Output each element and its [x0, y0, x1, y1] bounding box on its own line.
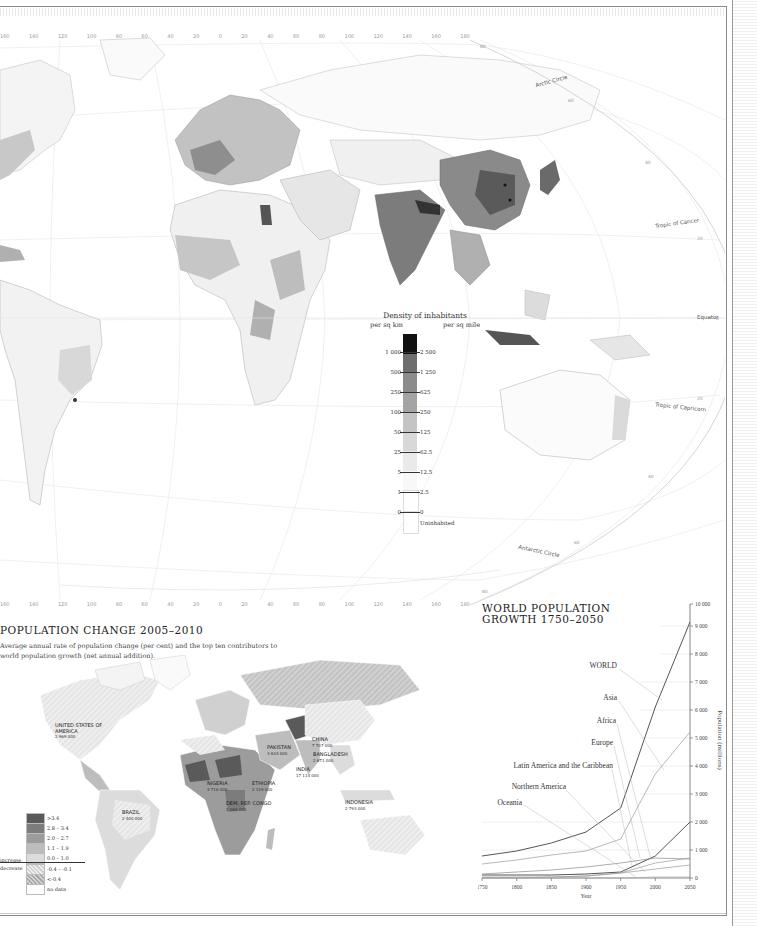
- lon-label: 160: [0, 601, 10, 607]
- tick-mile: 125: [420, 429, 431, 435]
- svg-text:8 000: 8 000: [695, 651, 708, 657]
- decrease-label: decrease: [0, 865, 23, 871]
- svg-text:3 000: 3 000: [695, 791, 708, 797]
- population-change-title: POPULATION CHANGE 2005–2010: [0, 624, 203, 636]
- tick-mile: 12.5: [420, 469, 432, 475]
- tick-mile: 62.5: [420, 449, 432, 455]
- country-label-bangladesh: BANGLADESH2 671 000: [313, 752, 348, 763]
- lat-label: 20: [697, 236, 703, 241]
- svg-text:1900: 1900: [581, 884, 592, 890]
- svg-text:9 000: 9 000: [695, 623, 708, 629]
- series-world: [482, 622, 690, 856]
- svg-text:Africa: Africa: [597, 716, 617, 725]
- lon-label: 20: [193, 601, 199, 607]
- country-value: 3 634 000: [267, 751, 291, 757]
- unit-per-sq-mile: per sq mile: [443, 321, 480, 329]
- density-swatch: [403, 334, 417, 354]
- density-swatch: [403, 490, 419, 512]
- country-label-china: CHINA7 707 000: [312, 737, 332, 748]
- svg-text:0: 0: [695, 875, 698, 881]
- longitude-labels-bottom: 160 140 120 100 80 60 40 20 0 20 40 60 8…: [0, 601, 470, 607]
- country-value: 2 793 000: [345, 806, 373, 812]
- tick-mile: 2.5: [420, 489, 429, 495]
- lat-label: 80: [482, 589, 488, 594]
- svg-text:1950: 1950: [615, 884, 626, 890]
- lon-label: 0: [219, 601, 222, 607]
- tick-km: 25: [371, 449, 401, 455]
- lon-label: 80: [319, 601, 325, 607]
- country-value: 2 969 000: [55, 734, 115, 740]
- svg-text:7 000: 7 000: [695, 679, 708, 685]
- country-name: PAKISTAN: [267, 745, 291, 751]
- tick-mile: 2 500: [420, 349, 436, 355]
- lon-label: 40: [167, 601, 173, 607]
- svg-text:Latin America and the Caribbea: Latin America and the Caribbean: [513, 761, 613, 770]
- lon-label: 140: [29, 601, 39, 607]
- country-name: BANGLADESH: [313, 752, 348, 758]
- tick-km: 50: [371, 429, 401, 435]
- density-legend-title: Density of inhabitants: [370, 311, 480, 320]
- legend-label: 0.0 – 1.0: [47, 855, 69, 861]
- country-value: 17 114 000: [296, 773, 319, 779]
- tick-km: 5: [371, 469, 401, 475]
- uninhabited-label: Uninhabited: [420, 520, 455, 526]
- lat-label: 40: [648, 474, 654, 479]
- svg-text:2000: 2000: [650, 884, 661, 890]
- lat-label: 60: [574, 540, 580, 545]
- country-value: 3 716 000: [207, 787, 228, 793]
- tick-km: 1: [371, 489, 401, 495]
- density-swatch: [403, 512, 419, 534]
- svg-text:5 000: 5 000: [695, 735, 708, 741]
- tick-mile: 625: [420, 389, 431, 395]
- svg-text:10 000: 10 000: [695, 601, 710, 607]
- svg-text:Oceania: Oceania: [497, 798, 522, 807]
- population-density-map: [0, 20, 725, 605]
- svg-text:Year: Year: [580, 893, 591, 899]
- country-name: INDONESIA: [345, 800, 373, 806]
- svg-text:Population (millions): Population (millions): [716, 710, 724, 770]
- tick-km: 250: [371, 389, 401, 395]
- lat-label: 40: [645, 160, 651, 165]
- increase-decrease-divider: [0, 862, 85, 863]
- lon-label: 140: [402, 601, 412, 607]
- tick-km: 500: [371, 369, 401, 375]
- svg-text:Northern America: Northern America: [512, 782, 567, 791]
- lon-label: 120: [58, 601, 68, 607]
- legend-swatch: [26, 884, 45, 895]
- svg-text:WORLD: WORLD: [590, 661, 618, 670]
- country-name: ETHIOPIA: [252, 781, 275, 787]
- lon-label: 180: [460, 601, 470, 607]
- svg-text:2050: 2050: [685, 884, 696, 890]
- legend-row: <-0.4: [0, 874, 90, 884]
- bottom-rule: [0, 913, 726, 914]
- country-label-pakistan: PAKISTAN3 634 000: [267, 745, 291, 756]
- legend-label: -0.4 – -0.1: [47, 866, 72, 872]
- right-margin-hatch: [732, 0, 757, 926]
- country-label-india: INDIA17 114 000: [296, 767, 319, 778]
- lon-label: 80: [116, 601, 122, 607]
- country-value: 2 066 000: [226, 807, 272, 813]
- lon-label: 40: [267, 601, 273, 607]
- legend-label: <-0.4: [47, 876, 61, 882]
- legend-row: >3.4: [0, 813, 90, 823]
- lon-label: 20: [241, 601, 247, 607]
- tick-mile: 1 250: [420, 369, 436, 375]
- svg-text:1750: 1750: [478, 884, 488, 890]
- legend-label: >3.4: [47, 815, 59, 821]
- lon-label: 100: [87, 601, 97, 607]
- country-name: BRAZIL: [122, 810, 142, 816]
- legend-label: no data: [47, 886, 66, 892]
- lon-label: 60: [293, 601, 299, 607]
- country-label-ethiopia: ETHIOPIA2 129 000: [252, 781, 275, 792]
- density-swatch: [403, 471, 417, 491]
- tick-km: 100: [371, 409, 401, 415]
- lon-label: 100: [344, 601, 354, 607]
- legend-label: 2.0 – 2.7: [47, 835, 69, 841]
- svg-text:Asia: Asia: [603, 693, 617, 702]
- country-label-dem-rep-congo: DEM. REP. CONGO2 066 000: [226, 801, 272, 812]
- tick-km: 0: [371, 509, 401, 515]
- svg-text:6 000: 6 000: [695, 707, 708, 713]
- density-swatch: [403, 354, 417, 374]
- country-label-nigeria: NIGERIA3 716 000: [207, 781, 228, 792]
- lon-label: 120: [373, 601, 383, 607]
